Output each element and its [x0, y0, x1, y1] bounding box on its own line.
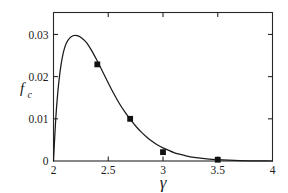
x-tick-label: 2.5	[101, 164, 116, 176]
data-marker	[94, 61, 100, 67]
y-tick-label: 0.02	[28, 71, 48, 83]
y-tick-label: 0.03	[28, 29, 48, 41]
chart-canvas: 22.533.54 00.010.020.03 f c γ	[0, 0, 288, 193]
data-marker	[215, 157, 221, 163]
y-axis-label-subscript: c	[28, 89, 33, 100]
y-tick-label: 0.01	[28, 113, 48, 125]
x-tick-label: 3.5	[211, 164, 226, 176]
data-marker	[127, 116, 133, 122]
x-tick-label: 2	[51, 164, 57, 176]
x-tick-label: 4	[270, 164, 276, 176]
y-tick-label: 0	[43, 155, 49, 167]
data-marker	[160, 149, 166, 155]
chart-figure: 22.533.54 00.010.020.03 f c γ	[0, 0, 288, 193]
